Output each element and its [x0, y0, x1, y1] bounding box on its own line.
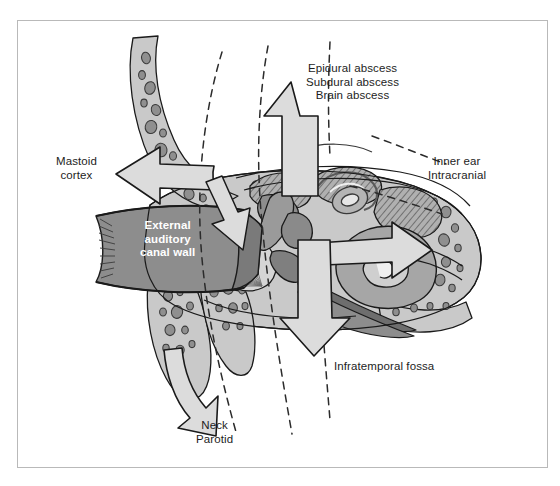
- label-canal-wall: canal wall: [140, 246, 195, 260]
- label-intracranial: Intracranial: [428, 169, 486, 183]
- neck-parotid-label: Neck Parotid: [196, 419, 233, 446]
- label-external: External: [140, 219, 195, 233]
- label-auditory: auditory: [140, 233, 195, 247]
- label-infratemporal-fossa: Infratemporal fossa: [334, 360, 434, 374]
- inner-ear-label: Inner ear Intracranial: [428, 155, 486, 182]
- label-brain-abscess: Brain abscess: [306, 89, 399, 103]
- mastoid-cortex-label: Mastoid cortex: [56, 155, 97, 182]
- infratemporal-fossa-label: Infratemporal fossa: [334, 360, 434, 374]
- label-neck: Neck: [196, 419, 233, 433]
- external-auditory-canal-wall-label: External auditory canal wall: [140, 219, 195, 260]
- ear-anatomy-illustration: [0, 0, 560, 486]
- superior-spread-label: Epidural abscess Subdural abscess Brain …: [306, 62, 399, 103]
- label-epidural-abscess: Epidural abscess: [306, 62, 399, 76]
- figure-root: Epidural abscess Subdural abscess Brain …: [0, 0, 560, 486]
- label-inner-ear: Inner ear: [428, 155, 486, 169]
- label-cortex: cortex: [56, 169, 97, 183]
- label-mastoid: Mastoid: [56, 155, 97, 169]
- label-parotid: Parotid: [196, 433, 233, 447]
- label-subdural-abscess: Subdural abscess: [306, 76, 399, 90]
